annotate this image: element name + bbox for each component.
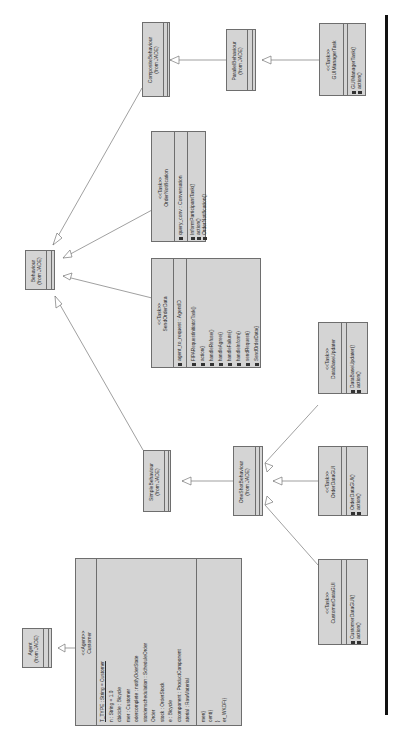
compartment-divider [259, 447, 260, 515]
operation-item: cent() [207, 698, 214, 722]
class-name: <<Task>> DataBaseUpdater [324, 327, 336, 391]
attribute-item: Order [150, 643, 159, 722]
compartment-divider [168, 451, 169, 511]
compartment-divider [247, 30, 248, 90]
compartment-divider [347, 24, 348, 95]
attribute-item: T_TYPE : String = Customer [99, 643, 108, 722]
compartment-divider [163, 23, 164, 96]
compartment-divider [255, 447, 256, 515]
operation-item: FIPARequestInitiatorTask() [189, 306, 198, 366]
class-oneshot-behaviour[interactable]: OneShotBehaviour (from JADE) [233, 446, 263, 516]
compartment-divider [186, 259, 187, 367]
attribute-item: stordenschedulation : ScheduleOrder [142, 643, 151, 722]
compartment-divider [167, 23, 168, 96]
compartment-divider [346, 323, 347, 393]
operations: OrderDataGUI() action() [349, 474, 361, 515]
attributes: agent_to_request : AgentID [176, 300, 182, 366]
class-name: <<Task>> CustomerDataGUI [324, 564, 336, 642]
class-send-order-data[interactable]: <<Task>> SendOrderData agent_to_request … [151, 258, 261, 368]
class-name: <<Task>> OrderNotification [157, 138, 169, 238]
operation-item: action() [355, 345, 361, 393]
operations: DataBaseUpdater() action() [349, 345, 361, 393]
class-order-notification[interactable]: <<Task>> OrderNotification query_conv : … [151, 131, 206, 242]
compartment-divider [96, 559, 97, 725]
operation-item: SendOrderData() [252, 306, 261, 366]
attribute-item: mer : Customer [125, 643, 134, 722]
operation-item: handleFailure() [225, 306, 234, 366]
class-simple-behaviour[interactable]: SimpleBehaviour (from JADE) [143, 450, 171, 512]
attribute-item: aterial : RawMaterial [184, 643, 193, 722]
class-parallel-behaviour[interactable]: ParallelBehaviour (from JADE) [226, 29, 256, 91]
compartment-divider [173, 259, 174, 367]
attribute-item: stock : OrderStock [159, 643, 168, 722]
compartment-divider [174, 132, 175, 241]
compartment-divider [343, 24, 344, 95]
operation-item: action() [356, 47, 362, 94]
attributes: T_TYPE : String = Customer n : String = … [99, 643, 193, 722]
class-name: <<Task>> SendOrderData [156, 264, 168, 364]
compartment-divider [196, 559, 197, 725]
compartment-divider [252, 30, 253, 90]
class-customer-data-gui[interactable]: <<Task>> CustomerDataGUI CustomerDataGUI… [318, 559, 368, 645]
operation-item: mer() [200, 698, 207, 722]
class-name: Behaviour (from JADE) [30, 253, 42, 289]
operation-item: handleInform() [234, 306, 243, 366]
class-customer[interactable]: <<Agent>> Customer T_TYPE : String = Cus… [75, 558, 242, 726]
attribute-item: e : Bicycle [167, 643, 176, 722]
class-name: <<Task>> GUIManagerTask [325, 28, 337, 92]
operation-item: handleRefuse() [207, 306, 216, 366]
class-name: <<Task>> OrderDataGUI [324, 451, 336, 513]
compartment-divider [341, 323, 342, 393]
compartment-divider [43, 629, 44, 667]
operation-item: action() [355, 595, 361, 644]
class-name: <<Agent>> Customer [80, 563, 92, 723]
operation-item: sendRequest() [243, 306, 252, 366]
attribute-item: ctcomponent : ProductComponent [176, 643, 185, 722]
class-database-updater[interactable]: <<Task>> DataBaseUpdater DataBaseUpdater… [318, 322, 368, 394]
compartment-divider [341, 447, 342, 515]
operations: GUIManagerTask() action() [350, 47, 362, 94]
operation-item: action() [355, 474, 361, 515]
operation-item: OrderNotification() [201, 184, 207, 240]
class-name: CompositeBehaviour (from JADE) [147, 27, 159, 93]
operation-item: handleAgree() [216, 306, 225, 366]
compartment-divider [187, 132, 188, 241]
operations: CustomerDataGUI() action() [349, 595, 361, 644]
class-name: OneShotBehaviour (from JADE) [238, 451, 250, 513]
operations: mer() cent() } er_WKDF() [200, 698, 228, 722]
operation-item: } [214, 698, 221, 722]
attributes: query_conv : Conversation [177, 176, 183, 240]
operation-item: er_WKDF() [221, 698, 228, 722]
operations: FIPARequestInitiatorTask() action() hand… [189, 306, 261, 366]
attribute-item: cbicicle : Bicycle [116, 643, 125, 722]
compartment-divider [341, 560, 342, 644]
class-agent[interactable]: Agent (from JADE) [22, 628, 52, 668]
compartment-divider [51, 251, 52, 289]
class-composite-behaviour[interactable]: CompositeBehaviour (from JADE) [142, 22, 170, 97]
operation-item: action() [198, 306, 207, 366]
class-name: SimpleBehaviour (from JADE) [148, 455, 160, 509]
attribute-item: agent_to_request : AgentID [176, 300, 182, 366]
uml-diagram-canvas: Behaviour (from JADE) CompositeBehaviour… [0, 0, 396, 741]
compartment-divider [48, 629, 49, 667]
operations: InformParticipantTask() action() OrderNo… [189, 184, 207, 240]
class-name: ParallelBehaviour (from JADE) [231, 34, 243, 88]
compartment-divider [346, 560, 347, 644]
compartment-divider [46, 251, 47, 289]
page-edge-rule [385, 15, 388, 715]
class-order-data-gui[interactable]: <<Task>> OrderDataGUI OrderDataGUI() act… [318, 446, 368, 516]
class-name: Agent (from JADE) [27, 631, 39, 667]
compartment-divider [346, 447, 347, 515]
attribute-item: n : String = 1.0 [108, 643, 117, 722]
compartment-divider [164, 451, 165, 511]
class-behaviour[interactable]: Behaviour (from JADE) [25, 250, 55, 290]
class-gui-manager-task[interactable]: <<Task>> GUIManagerTask GUIManagerTask()… [319, 23, 366, 96]
attribute-item: query_conv : Conversation [177, 176, 183, 240]
attribute-item: odercomplete : notifyOderState [133, 643, 142, 722]
